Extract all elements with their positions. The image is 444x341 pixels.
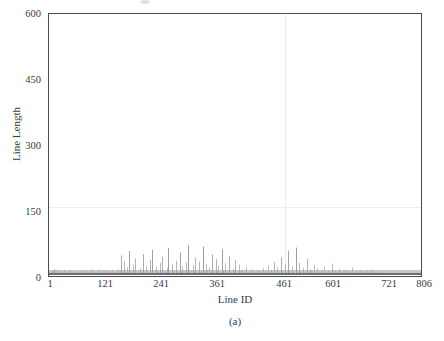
x-axis-title: Line ID: [48, 293, 422, 305]
x-axis-tick-labels: 1 121 241 361 461 601 721 806: [0, 278, 444, 294]
x-tick-label: 721: [381, 278, 397, 290]
x-tick-label: 1: [47, 278, 52, 290]
page-artifact-glyph: [140, 0, 150, 4]
x-tick-label: 361: [209, 278, 225, 290]
y-axis-title: Line Length: [10, 74, 22, 194]
figure-panel-a: 600 450 300 150 0 Line Length 1 121 241 …: [0, 0, 444, 341]
impulse-series-canvas: [49, 14, 421, 276]
x-tick-label: 121: [97, 278, 113, 290]
x-tick-label: 806: [416, 278, 432, 290]
plot-area: [49, 14, 421, 276]
y-tick-label: 150: [0, 206, 41, 217]
y-tick-label: 600: [0, 8, 41, 19]
x-tick-label: 601: [325, 278, 341, 290]
x-tick-label: 461: [276, 278, 292, 290]
subfigure-caption: (a): [48, 315, 422, 327]
x-tick-label: 241: [153, 278, 169, 290]
plot-frame: [48, 13, 422, 277]
